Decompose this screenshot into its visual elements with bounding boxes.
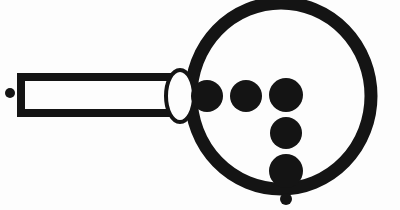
lens-dot	[270, 117, 302, 149]
lens-dot	[269, 78, 303, 112]
lens-dot	[191, 80, 223, 112]
left-tail-dot	[5, 88, 15, 98]
handle-bar	[21, 77, 173, 113]
collar-oval	[166, 70, 194, 122]
lens-dot	[269, 154, 303, 188]
lens-dot	[230, 80, 262, 112]
figure-canvas: Magnifying glass with dots Black and whi…	[0, 0, 400, 210]
bottom-outside-dot	[280, 193, 292, 205]
magnifier-drawing	[0, 0, 400, 210]
